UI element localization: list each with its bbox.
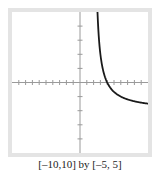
graph-plot <box>12 12 148 153</box>
window-caption: [–10,10] by [–5, 5] <box>0 158 160 170</box>
function-curve <box>97 12 148 104</box>
